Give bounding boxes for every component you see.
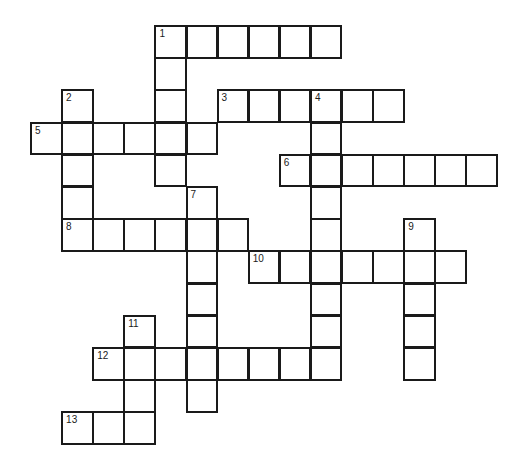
crossword-cell[interactable] <box>123 411 156 445</box>
crossword-cell[interactable] <box>310 315 343 349</box>
crossword-cell[interactable] <box>123 218 156 252</box>
crossword-cell[interactable]: 1 <box>154 25 187 59</box>
crossword-cell[interactable] <box>310 122 343 156</box>
crossword-cell[interactable] <box>217 25 250 59</box>
crossword-cell[interactable] <box>154 154 187 188</box>
crossword-cell[interactable]: 12 <box>92 347 125 381</box>
clue-number: 11 <box>128 318 138 329</box>
crossword-cell[interactable]: 6 <box>279 154 312 188</box>
crossword-cell[interactable]: 7 <box>186 186 219 220</box>
crossword-cell[interactable]: 5 <box>30 122 63 156</box>
crossword-cell[interactable] <box>372 154 405 188</box>
crossword-grid: 12834567910111213 <box>0 0 526 468</box>
clue-number: 3 <box>222 92 228 103</box>
crossword-cell[interactable]: 9 <box>403 218 436 252</box>
crossword-cell[interactable] <box>154 122 187 156</box>
crossword-cell[interactable]: 3 <box>217 89 250 123</box>
crossword-cell[interactable] <box>403 250 436 284</box>
crossword-cell[interactable]: 10 <box>248 250 281 284</box>
crossword-cell[interactable] <box>186 122 219 156</box>
clue-number: 9 <box>408 221 414 232</box>
crossword-cell[interactable] <box>341 250 374 284</box>
clue-number: 2 <box>66 92 72 103</box>
clue-number: 1 <box>159 28 165 39</box>
clue-number: 6 <box>284 157 290 168</box>
crossword-cell[interactable]: 8 <box>61 218 94 252</box>
crossword-cell[interactable] <box>186 250 219 284</box>
clue-number: 5 <box>35 125 41 136</box>
crossword-cell[interactable] <box>248 25 281 59</box>
crossword-cell[interactable] <box>186 379 219 413</box>
crossword-cell[interactable]: 11 <box>123 315 156 349</box>
crossword-cell[interactable] <box>279 347 312 381</box>
crossword-cell[interactable] <box>279 89 312 123</box>
crossword-cell[interactable] <box>61 122 94 156</box>
crossword-cell[interactable] <box>186 315 219 349</box>
crossword-cell[interactable] <box>310 218 343 252</box>
clue-number: 7 <box>191 189 197 200</box>
crossword-cell[interactable] <box>217 347 250 381</box>
crossword-cell[interactable] <box>279 25 312 59</box>
crossword-cell[interactable] <box>217 218 250 252</box>
crossword-cell[interactable] <box>465 154 498 188</box>
crossword-cell[interactable] <box>61 186 94 220</box>
crossword-cell[interactable] <box>403 154 436 188</box>
crossword-cell[interactable] <box>123 379 156 413</box>
crossword-cell[interactable] <box>248 89 281 123</box>
crossword-cell[interactable] <box>123 347 156 381</box>
crossword-cell[interactable] <box>341 89 374 123</box>
crossword-cell[interactable] <box>154 218 187 252</box>
crossword-cell[interactable] <box>341 154 374 188</box>
clue-number: 10 <box>253 253 264 264</box>
crossword-cell[interactable] <box>372 89 405 123</box>
clue-number: 8 <box>66 221 72 232</box>
crossword-cell[interactable] <box>310 186 343 220</box>
crossword-cell[interactable] <box>186 218 219 252</box>
crossword-cell[interactable] <box>154 89 187 123</box>
crossword-cell[interactable] <box>310 347 343 381</box>
crossword-cell[interactable] <box>434 250 467 284</box>
crossword-cell[interactable] <box>403 315 436 349</box>
crossword-cell[interactable] <box>154 347 187 381</box>
crossword-cell[interactable] <box>310 283 343 317</box>
crossword-cell[interactable] <box>279 250 312 284</box>
crossword-cell[interactable] <box>92 218 125 252</box>
clue-number: 12 <box>97 350 108 361</box>
crossword-cell[interactable] <box>123 122 156 156</box>
crossword-cell[interactable] <box>403 347 436 381</box>
crossword-cell[interactable] <box>154 57 187 91</box>
crossword-cell[interactable] <box>92 411 125 445</box>
crossword-cell[interactable] <box>61 154 94 188</box>
crossword-cell[interactable] <box>310 250 343 284</box>
crossword-cell[interactable] <box>372 250 405 284</box>
crossword-cell[interactable]: 2 <box>61 89 94 123</box>
crossword-cell[interactable] <box>310 154 343 188</box>
crossword-cell[interactable] <box>248 347 281 381</box>
crossword-cell[interactable] <box>186 283 219 317</box>
crossword-cell[interactable] <box>92 122 125 156</box>
crossword-cell[interactable]: 13 <box>61 411 94 445</box>
crossword-cell[interactable] <box>434 154 467 188</box>
crossword-cell[interactable]: 4 <box>310 89 343 123</box>
clue-number: 13 <box>66 414 77 425</box>
crossword-cell[interactable] <box>186 347 219 381</box>
crossword-cell[interactable] <box>310 25 343 59</box>
crossword-cell[interactable] <box>403 283 436 317</box>
clue-number: 4 <box>315 92 321 103</box>
crossword-cell[interactable] <box>186 25 219 59</box>
